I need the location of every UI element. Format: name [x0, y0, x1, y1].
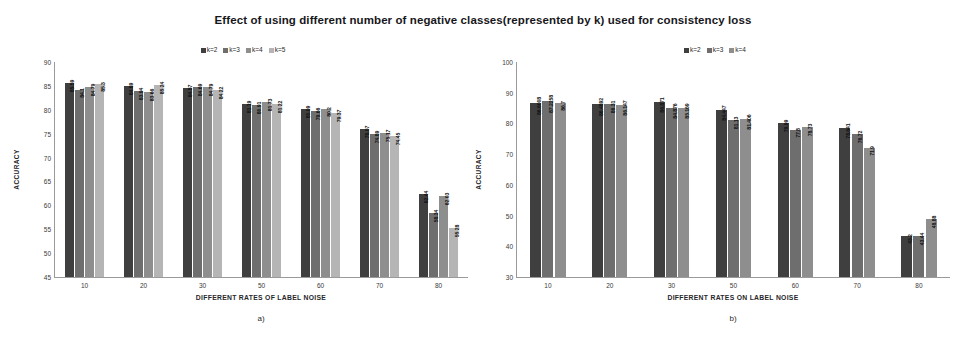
x-tick-label: 70 [854, 282, 861, 289]
bar[interactable]: 74.89 [370, 134, 379, 277]
bar[interactable]: 62.03 [439, 196, 448, 277]
figure-canvas: Effect of using different number of nega… [0, 0, 966, 347]
bar[interactable]: 86.4892 [592, 104, 603, 278]
bar-value-label: 84.876 [672, 104, 678, 119]
bar[interactable]: 83.94 [134, 91, 143, 277]
bar-value-label: 84.22 [218, 86, 224, 98]
bar[interactable]: 43.44 [913, 236, 924, 277]
legend-item-k2[interactable]: k=2 [201, 46, 218, 53]
bar-value-label: 48.88 [931, 216, 937, 228]
plot-area-b: 10090807060504030 86.600887.225886.71086… [516, 62, 950, 278]
bar[interactable]: 85.3 [95, 84, 104, 277]
bar[interactable]: 85.24 [154, 85, 163, 277]
x-tick-label: 60 [792, 282, 799, 289]
x-axis-label-a: DIFFERENT RATES OF LABEL NOISE [54, 294, 468, 301]
bar-value-label: 86.31 [610, 101, 616, 113]
y-tick-label: 85 [44, 82, 51, 89]
bar[interactable]: 81.19 [242, 104, 251, 277]
legend-swatch-icon [684, 48, 689, 53]
bar[interactable]: 81.22 [272, 104, 281, 277]
bar[interactable]: 85.59 [65, 83, 74, 277]
bar[interactable]: 55.28 [449, 228, 458, 277]
bar[interactable]: 84.1 [75, 90, 84, 277]
bar[interactable]: 76.07 [360, 129, 369, 277]
x-tick-label: 20 [606, 282, 613, 289]
x-tick-label: 80 [435, 282, 442, 289]
bar[interactable]: 86.871 [654, 102, 665, 277]
bar[interactable]: 71.9 [864, 148, 875, 277]
bar[interactable]: 86.7 [555, 103, 566, 277]
legend-b: k=2k=3k=4 [470, 46, 960, 53]
legend-label: k=4 [735, 46, 746, 53]
bar-value-label: 86.871 [659, 98, 665, 113]
bar[interactable]: 86.31 [604, 104, 615, 277]
bar-group: 76.0774.8975.1774.4570 [350, 62, 409, 277]
bar[interactable]: 48.88 [926, 219, 937, 277]
bar-group: 86.489286.3186.14720 [579, 62, 641, 277]
legend-a: k=2k=3k=4k=5 [8, 46, 478, 53]
bar[interactable]: 43.2 [901, 236, 912, 277]
bar[interactable]: 84.79 [85, 87, 94, 277]
bar[interactable]: 87.2258 [542, 101, 553, 277]
legend-item-k5[interactable]: k=5 [269, 46, 286, 53]
legend-item-k4[interactable]: k=4 [729, 46, 746, 53]
legend-item-k3[interactable]: k=3 [223, 46, 240, 53]
bar[interactable]: 75.17 [380, 133, 389, 277]
bar[interactable]: 78.641 [839, 128, 850, 277]
bar[interactable]: 81.13 [728, 120, 739, 277]
bar-value-label: 78.641 [845, 123, 851, 138]
subplot-caption-a: a) [54, 314, 468, 323]
y-tick-label: 65 [44, 178, 51, 185]
bar-value-label: 87.2258 [548, 95, 554, 113]
bar-group: 84.8983.9483.6685.2420 [114, 62, 173, 277]
bar[interactable]: 58.34 [429, 213, 438, 277]
legend-item-k2[interactable]: k=2 [684, 46, 701, 53]
bar[interactable]: 86.6008 [530, 103, 541, 277]
bar[interactable]: 77.8 [790, 130, 801, 277]
bar-value-label: 74.45 [395, 133, 401, 145]
y-tick-label: 100 [502, 59, 513, 66]
bar-value-label: 81.406 [746, 114, 752, 129]
bar[interactable]: 83.66 [144, 92, 153, 277]
y-tick-label: 75 [44, 130, 51, 137]
legend-label: k=3 [229, 46, 240, 53]
bar[interactable]: 79.66 [311, 111, 320, 277]
bar[interactable]: 86.147 [616, 105, 627, 277]
bar[interactable]: 84.69 [193, 87, 202, 277]
plot-area-a: 90858075706560555045 85.5984.184.7985.31… [54, 62, 468, 278]
legend-item-k4[interactable]: k=4 [246, 46, 263, 53]
bar[interactable]: 79.37 [331, 113, 340, 277]
bar[interactable]: 80.2 [321, 109, 330, 277]
bar[interactable]: 78.73 [802, 127, 813, 277]
bar-group: 86.87184.87685.16930 [641, 62, 703, 277]
bar[interactable]: 84.447 [716, 110, 727, 277]
bar[interactable]: 80.91 [252, 105, 261, 277]
bar-value-label: 43.44 [919, 232, 925, 244]
legend-item-k3[interactable]: k=3 [707, 46, 724, 53]
bar[interactable]: 79.99 [778, 123, 789, 277]
bar[interactable]: 85.169 [678, 108, 689, 277]
y-tick-label: 80 [44, 106, 51, 113]
bar[interactable]: 80.09 [301, 109, 310, 277]
bar-value-label: 77.8 [795, 128, 801, 138]
legend-label: k=2 [690, 46, 701, 53]
bar-value-label: 79.37 [336, 110, 342, 122]
bar[interactable]: 74.45 [390, 136, 399, 277]
bar-value-label: 62.44 [423, 190, 429, 202]
bar[interactable]: 81.73 [262, 102, 271, 277]
bar[interactable]: 81.406 [740, 119, 751, 277]
bar-value-label: 76.72 [857, 130, 863, 142]
bar-group: 79.9977.878.7360 [764, 62, 826, 277]
bar[interactable]: 84.876 [666, 108, 677, 277]
bar[interactable]: 84.57 [183, 88, 192, 277]
bar[interactable]: 84.22 [213, 90, 222, 277]
y-axis-label-a: ACCURACY [10, 62, 22, 277]
bar-group: 81.1980.9181.7381.2250 [232, 62, 291, 277]
bar[interactable]: 62.44 [419, 194, 428, 277]
x-tick-label: 60 [317, 282, 324, 289]
bar[interactable]: 84.89 [124, 86, 133, 277]
bar[interactable]: 84.79 [203, 87, 212, 277]
subplot-caption-b: b) [516, 314, 950, 323]
bar[interactable]: 76.72 [852, 134, 863, 277]
bar-value-label: 43.2 [907, 235, 913, 245]
